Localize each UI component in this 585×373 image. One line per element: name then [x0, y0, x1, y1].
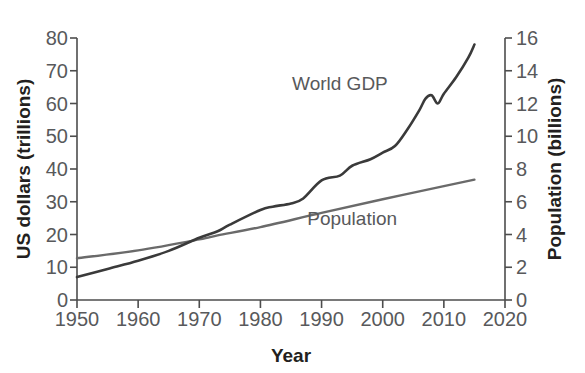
- left-axis-tick-marks: [70, 38, 77, 300]
- right-tick-label-4: 8: [516, 158, 527, 180]
- left-tick-label-8: 80: [46, 27, 68, 49]
- left-tick-label-7: 70: [46, 60, 68, 82]
- left-tick-label-6: 60: [46, 93, 68, 115]
- x-tick-label-1: 1960: [116, 308, 161, 330]
- left-tick-label-5: 50: [46, 125, 68, 147]
- right-axis-title: Population (billions): [544, 78, 565, 261]
- right-tick-label-3: 6: [516, 191, 527, 213]
- right-axis-tick-marks: [505, 38, 512, 300]
- right-tick-label-7: 14: [516, 60, 538, 82]
- population-line: [77, 180, 474, 259]
- left-tick-label-3: 30: [46, 191, 68, 213]
- x-tick-label-4: 1990: [299, 308, 344, 330]
- right-axis-tick-labels: 0246810121416: [516, 27, 538, 311]
- left-axis-tick-labels: 01020304050607080: [46, 27, 68, 311]
- left-tick-label-4: 40: [46, 158, 68, 180]
- x-axis-tick-labels: 19501960197019801990200020102020: [55, 308, 528, 330]
- x-tick-label-7: 2020: [483, 308, 528, 330]
- right-tick-label-6: 12: [516, 93, 538, 115]
- x-tick-label-6: 2010: [422, 308, 467, 330]
- x-tick-label-0: 1950: [55, 308, 100, 330]
- world-gdp-line: [77, 45, 474, 278]
- x-tick-label-5: 2000: [360, 308, 405, 330]
- chart-container: 01020304050607080 0246810121416 19501960…: [0, 0, 585, 373]
- world-gdp-annotation: World GDP: [292, 73, 388, 94]
- left-tick-label-1: 10: [46, 256, 68, 278]
- dual-axis-line-chart: 01020304050607080 0246810121416 19501960…: [0, 0, 585, 373]
- x-axis-tick-marks: [77, 300, 505, 308]
- right-tick-label-8: 16: [516, 27, 538, 49]
- x-axis-title: Year: [271, 345, 312, 366]
- right-tick-label-5: 10: [516, 125, 538, 147]
- right-tick-label-2: 4: [516, 224, 527, 246]
- x-tick-label-2: 1970: [177, 308, 222, 330]
- left-axis-title: US dollars (trillions): [13, 79, 34, 260]
- x-tick-label-3: 1980: [238, 308, 283, 330]
- population-annotation: Population: [307, 208, 397, 229]
- right-tick-label-1: 2: [516, 256, 527, 278]
- left-tick-label-2: 20: [46, 224, 68, 246]
